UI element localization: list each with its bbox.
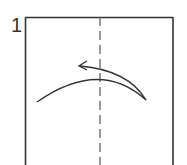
fold-arrow-icon [37,61,146,102]
paper-square [25,17,173,165]
fold-diagram [0,0,187,165]
